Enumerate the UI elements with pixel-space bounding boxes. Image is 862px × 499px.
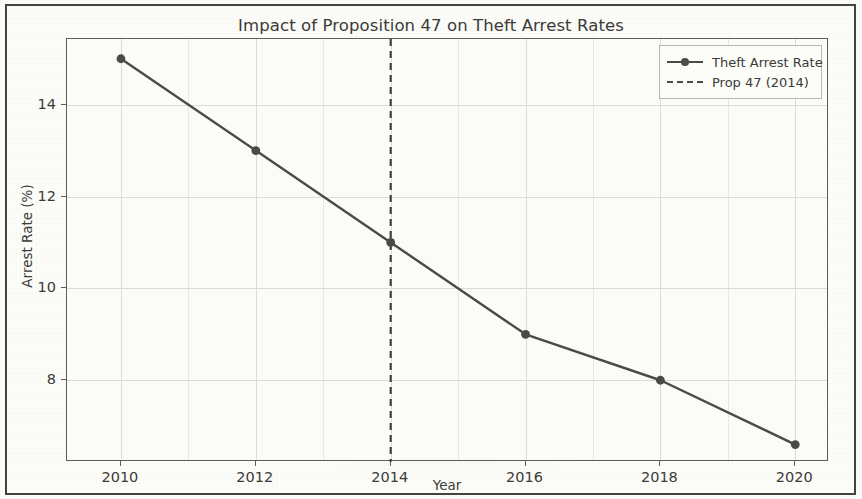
x-tick-mark	[390, 461, 391, 466]
chart-title: Impact of Proposition 47 on Theft Arrest…	[0, 16, 862, 35]
data-point-marker	[791, 440, 800, 449]
legend-entry-theft-arrest-rate: Theft Arrest Rate	[667, 52, 813, 72]
x-tick-mark	[659, 461, 660, 466]
y-tick-mark	[61, 379, 66, 380]
data-point-marker	[386, 238, 395, 247]
line-chart: Impact of Proposition 47 on Theft Arrest…	[0, 0, 862, 499]
y-tick-mark	[61, 287, 66, 288]
scanned-page: Impact of Proposition 47 on Theft Arrest…	[0, 0, 862, 499]
data-point-markers	[117, 54, 800, 449]
data-point-marker	[656, 376, 665, 385]
x-tick-mark	[525, 461, 526, 466]
dashed-line-key-icon	[667, 75, 703, 89]
legend-label: Theft Arrest Rate	[712, 55, 823, 70]
legend-label: Prop 47 (2014)	[712, 75, 809, 90]
series-layer	[67, 39, 829, 462]
theft-arrest-rate-line	[121, 59, 795, 445]
y-tick-label: 14	[18, 96, 56, 112]
data-point-marker	[521, 330, 530, 339]
x-tick-mark	[255, 461, 256, 466]
x-tick-mark	[794, 461, 795, 466]
x-axis-label: Year	[66, 477, 828, 493]
data-point-marker	[117, 54, 126, 63]
y-tick-mark	[61, 196, 66, 197]
x-tick-mark	[120, 461, 121, 466]
chart-legend: Theft Arrest Rate Prop 47 (2014)	[659, 45, 822, 99]
line-marker-key-icon	[667, 55, 703, 69]
data-point-marker	[251, 146, 260, 155]
plot-area	[66, 38, 828, 461]
y-tick-mark	[61, 104, 66, 105]
y-axis-label: Arrest Rate (%)	[19, 146, 35, 326]
y-tick-label: 8	[18, 371, 56, 387]
legend-entry-prop-47: Prop 47 (2014)	[667, 72, 813, 92]
